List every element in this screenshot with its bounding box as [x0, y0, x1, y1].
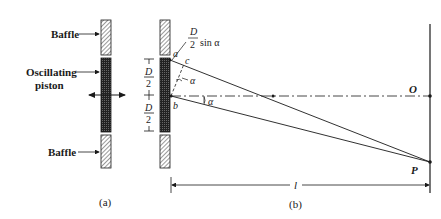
baffle-top-b	[160, 20, 170, 55]
path-diff-suffix: sin α	[200, 37, 220, 48]
half-width-bottom-den: 2	[146, 114, 151, 125]
angle-upper-label: α	[190, 75, 196, 86]
piston-label-line2: piston	[35, 79, 64, 91]
path-diff-den: 2	[190, 39, 195, 50]
caption-b: (b)	[289, 198, 302, 211]
baffle-bottom-label: Baffle	[48, 146, 76, 158]
angle-lower-label: α	[208, 96, 214, 107]
baffle-top-a	[101, 20, 111, 55]
piston-label-line1: Oscillating	[26, 66, 77, 78]
distance-label: l	[294, 179, 297, 191]
baffle-top-label: Baffle	[51, 28, 79, 40]
caption-a: (a)	[99, 196, 112, 209]
point-b-label: b	[173, 100, 178, 111]
piston-b	[160, 58, 170, 132]
point-c-label: c	[185, 55, 190, 66]
point-b-dot	[169, 94, 172, 97]
point-P-dot	[428, 160, 432, 164]
half-width-top-den: 2	[146, 78, 151, 89]
point-O-dot	[428, 94, 432, 98]
ray-from-a	[170, 60, 430, 162]
figure-a: Baffle Oscillating piston Baffle (a)	[26, 20, 126, 209]
diagram-canvas: Baffle Oscillating piston Baffle (a) D 2…	[0, 0, 441, 219]
point-a-dot	[169, 59, 172, 62]
figure-b: D 2 D 2 a c b D 2 sin α α α	[144, 20, 432, 211]
half-width-top-num: D	[144, 66, 153, 77]
axis-dot	[271, 94, 274, 97]
point-O-label: O	[409, 83, 417, 95]
baffle-bottom-a	[101, 135, 111, 168]
point-a-label: a	[173, 48, 178, 59]
path-diff-num: D	[189, 26, 198, 37]
half-width-bottom-num: D	[144, 102, 153, 113]
baffle-bottom-b	[160, 135, 170, 168]
point-P-label: P	[411, 164, 418, 176]
angle-upper-leader	[182, 78, 188, 80]
perpendicular-bc	[171, 64, 184, 96]
